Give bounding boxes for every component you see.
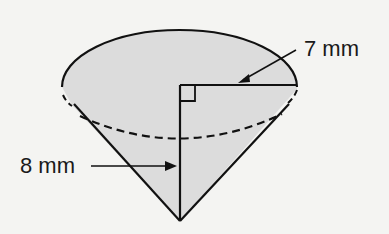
height-label: 8 mm	[20, 155, 75, 177]
radius-label: 7 mm	[304, 38, 359, 60]
